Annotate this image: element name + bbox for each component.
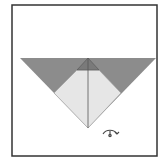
origami-diagram bbox=[0, 0, 165, 168]
turn-over-icon bbox=[103, 130, 119, 137]
